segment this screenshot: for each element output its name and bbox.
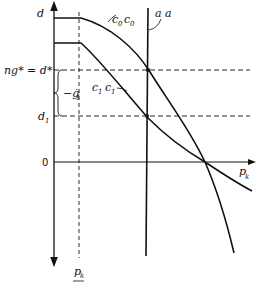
x-axis-label-sub: k xyxy=(245,173,249,181)
curve-c0-sub-1: 0 xyxy=(118,20,123,28)
g1-sub: 1 xyxy=(76,94,80,102)
curve-c1-sub-2: 1 xyxy=(111,88,115,96)
origin-label: 0 xyxy=(42,157,48,168)
curve-c1 xyxy=(54,43,252,191)
c1-leader xyxy=(117,88,127,91)
d-star-label: ng* = d* xyxy=(4,64,53,77)
aa-leader xyxy=(149,19,161,30)
d1-sub: 1 xyxy=(45,117,49,125)
curve-c0 xyxy=(54,18,234,253)
curve-c1-sub-1: 1 xyxy=(98,88,102,96)
pk-bottom-sub: k xyxy=(80,272,84,280)
intersection-c1-aa xyxy=(145,114,149,118)
intersection-c0-aa xyxy=(146,68,150,72)
aa-label: a a xyxy=(155,7,172,20)
aa-line xyxy=(146,8,148,256)
y-axis-label: d xyxy=(37,7,44,20)
curve-c0-sub-2: 0 xyxy=(130,20,135,28)
diagram: d ng* = d* d 1 −ġ 1 0 p k p k c 0 c 0 c … xyxy=(0,0,261,290)
d1-label: d xyxy=(38,110,45,123)
g1-brace xyxy=(54,70,62,116)
